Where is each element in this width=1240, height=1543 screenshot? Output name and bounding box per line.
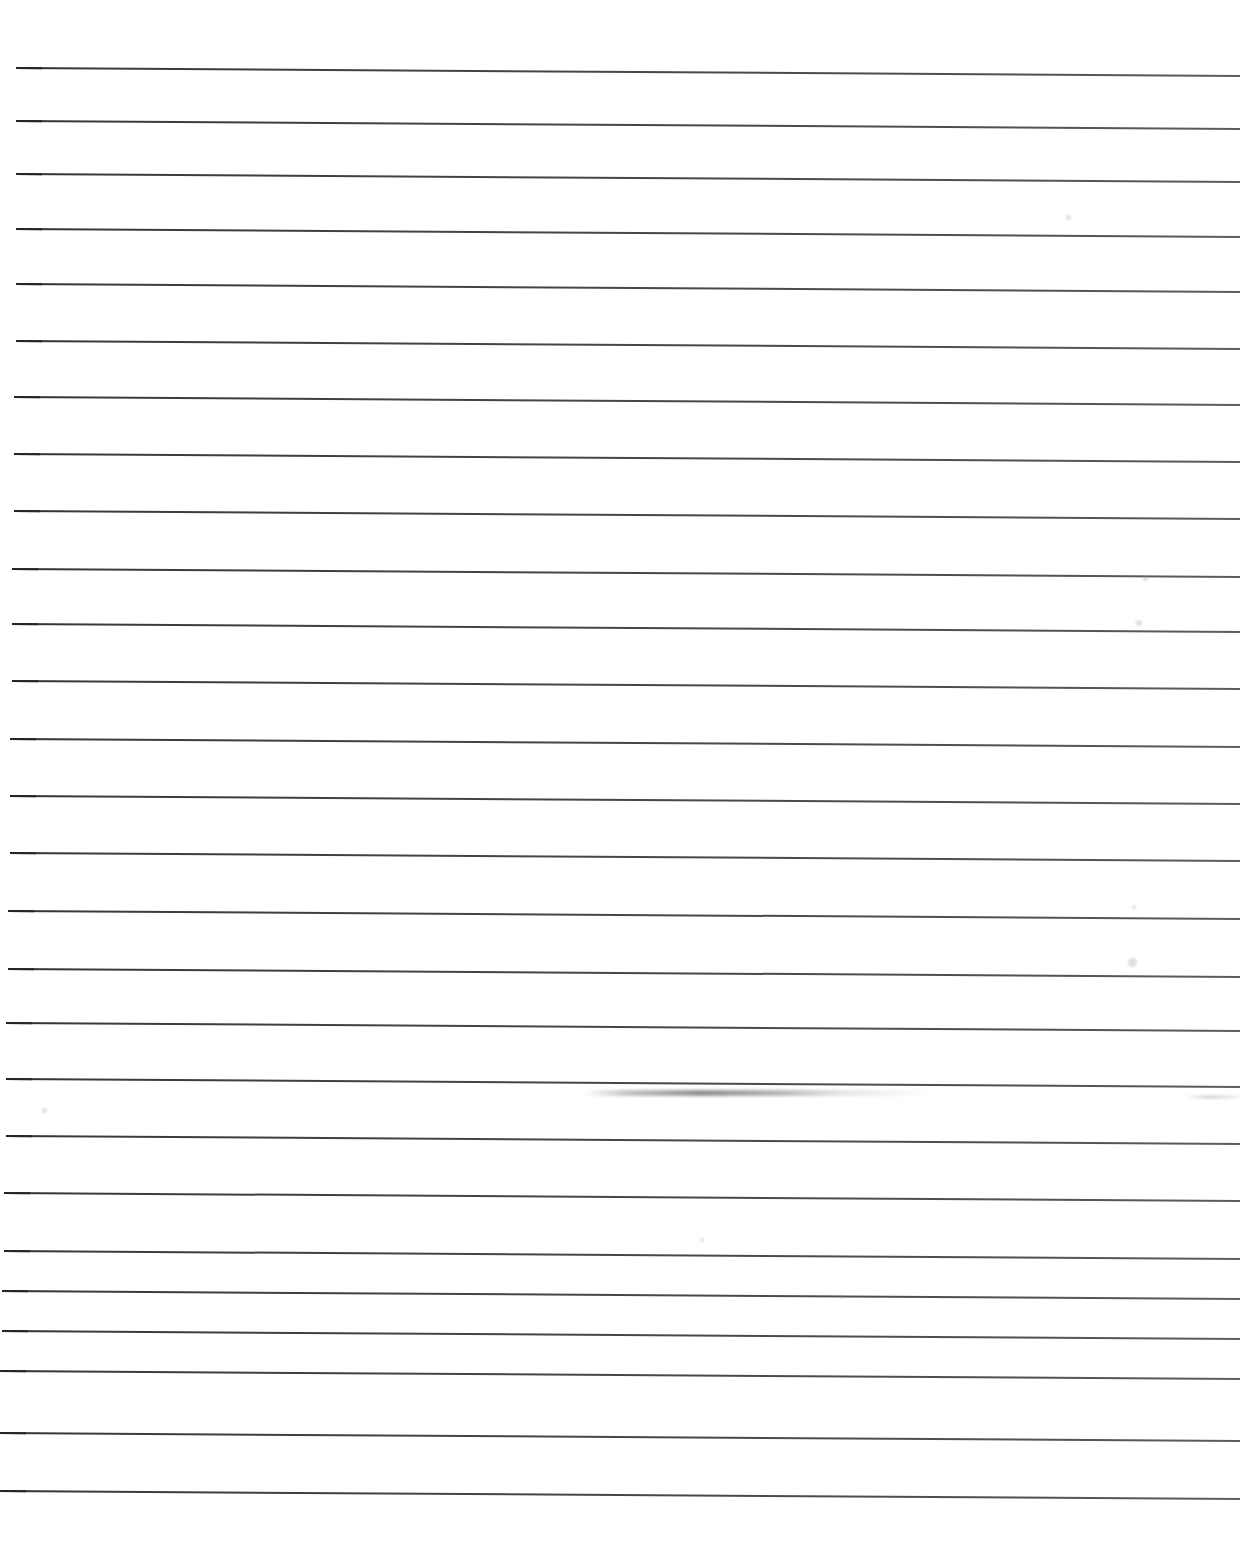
ruled-line <box>10 795 1240 803</box>
dust-speck <box>1066 215 1071 220</box>
ruled-line <box>12 623 1240 631</box>
dust-speck <box>1128 958 1137 967</box>
ruled-line-left-cap <box>16 283 42 285</box>
ruled-line <box>6 1135 1240 1143</box>
ruled-line-stroke <box>12 568 1240 578</box>
ruled-line-left-cap <box>12 623 38 625</box>
paper-surface <box>0 0 1240 1543</box>
dust-speck <box>1136 620 1142 626</box>
ruled-line-left-cap <box>16 120 42 122</box>
ruled-line-left-cap <box>10 738 36 740</box>
ruled-line <box>2 1290 1240 1298</box>
ruled-line-stroke <box>12 680 1240 690</box>
ruled-line-stroke <box>0 1370 1240 1380</box>
ruled-line-stroke <box>2 1290 1240 1300</box>
ruled-line-left-cap <box>0 1490 26 1492</box>
ruled-line <box>16 340 1240 348</box>
ruled-line-stroke <box>2 1330 1240 1340</box>
ruled-line-stroke <box>10 738 1240 748</box>
ruled-line-stroke <box>14 510 1240 520</box>
dust-speck <box>700 1238 704 1242</box>
ruled-line-left-cap <box>2 1330 28 1332</box>
ruled-line <box>14 396 1240 404</box>
ruled-line <box>16 228 1240 236</box>
scanner-smear <box>585 1090 930 1096</box>
ruled-line-left-cap <box>12 568 38 570</box>
dust-speck <box>1143 576 1148 581</box>
ruled-line-left-cap <box>14 396 40 398</box>
ruled-line-stroke <box>8 968 1240 978</box>
scanned-page <box>0 0 1240 1543</box>
ruled-line-stroke <box>14 396 1240 406</box>
ruled-line <box>10 738 1240 746</box>
ruled-line-left-cap <box>0 1432 26 1434</box>
ruled-line-left-cap <box>16 340 42 342</box>
ruled-line-stroke <box>14 453 1240 463</box>
ruled-line <box>6 1078 1240 1086</box>
ruled-line-left-cap <box>10 795 36 797</box>
dust-speck <box>42 1108 47 1113</box>
ruled-line-stroke <box>12 623 1240 633</box>
ruled-line <box>14 510 1240 518</box>
ruled-line <box>10 852 1240 860</box>
ruled-line <box>16 173 1240 181</box>
ruled-line-stroke <box>16 173 1240 183</box>
ruled-line-left-cap <box>2 1290 28 1292</box>
ruled-line <box>4 1192 1240 1200</box>
ruled-line <box>8 968 1240 976</box>
ruled-line <box>12 568 1240 576</box>
ruled-line-left-cap <box>8 910 34 912</box>
ruled-line <box>14 453 1240 461</box>
ruled-line <box>0 1490 1240 1498</box>
ruled-line-stroke <box>16 228 1240 238</box>
ruled-line-left-cap <box>16 173 42 175</box>
ruled-line <box>6 1022 1240 1030</box>
ruled-line <box>16 120 1240 128</box>
dust-speck <box>1132 905 1136 909</box>
ruled-line <box>0 1432 1240 1440</box>
ruled-line-left-cap <box>6 1078 32 1080</box>
ruled-line-left-cap <box>8 968 34 970</box>
ruled-line-left-cap <box>16 67 42 69</box>
ruled-line-left-cap <box>14 510 40 512</box>
ruled-line-stroke <box>16 120 1240 130</box>
ruled-line-stroke <box>6 1022 1240 1032</box>
ruled-line-left-cap <box>12 680 38 682</box>
dust-speck <box>840 1295 844 1299</box>
ruled-line-stroke <box>10 795 1240 805</box>
ruled-line <box>16 283 1240 291</box>
ruled-line-left-cap <box>6 1022 32 1024</box>
ruled-line <box>8 910 1240 918</box>
ruled-line <box>16 67 1240 75</box>
ruled-line-stroke <box>16 340 1240 350</box>
ruled-line <box>12 680 1240 688</box>
ruled-line <box>4 1250 1240 1258</box>
ruled-line-stroke <box>0 1432 1240 1442</box>
scanner-smear-tail <box>1185 1095 1240 1099</box>
ruled-line-stroke <box>0 1490 1240 1500</box>
ruled-line-stroke <box>4 1250 1240 1260</box>
ruled-line-left-cap <box>16 228 42 230</box>
ruled-line-left-cap <box>10 852 36 854</box>
ruled-line-left-cap <box>0 1370 26 1372</box>
ruled-line-stroke <box>10 852 1240 862</box>
ruled-line-left-cap <box>4 1250 30 1252</box>
ruled-line-stroke <box>16 283 1240 293</box>
ruled-line <box>2 1330 1240 1338</box>
ruled-line-left-cap <box>4 1192 30 1194</box>
ruled-line-stroke <box>16 67 1240 77</box>
ruled-line-stroke <box>6 1135 1240 1145</box>
ruled-line-left-cap <box>14 453 40 455</box>
ruled-line-stroke <box>8 910 1240 920</box>
ruled-line-stroke <box>6 1078 1240 1088</box>
ruled-line-stroke <box>4 1192 1240 1202</box>
ruled-line <box>0 1370 1240 1378</box>
ruled-line-left-cap <box>6 1135 32 1137</box>
